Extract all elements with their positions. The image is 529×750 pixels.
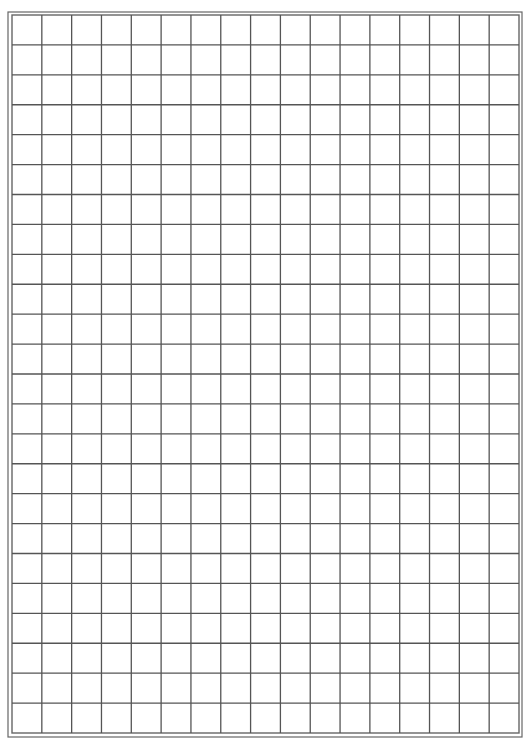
grid-paper <box>0 0 529 750</box>
grid-paper-page <box>0 0 529 750</box>
